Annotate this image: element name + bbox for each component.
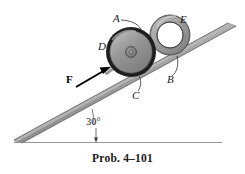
force-arrow — [76, 67, 111, 87]
label-b: B — [167, 74, 174, 85]
problem-figure: A D E B C F 30° Prob. 4–101 — [0, 0, 245, 174]
label-force-f: F — [66, 74, 73, 85]
label-angle-30: 30° — [86, 117, 101, 128]
label-e: E — [180, 14, 187, 25]
figure-caption: Prob. 4–101 — [0, 152, 245, 164]
label-a: A — [113, 13, 120, 24]
label-d: D — [98, 41, 106, 52]
wheel-d — [106, 27, 156, 77]
figure-illustration — [0, 0, 245, 174]
label-c: C — [132, 90, 139, 101]
